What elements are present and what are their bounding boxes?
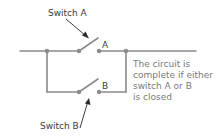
switch-a-blade	[79, 38, 98, 51]
switch-a-arrowhead-icon	[82, 32, 89, 39]
contact-a-label: A	[102, 40, 108, 50]
note-line-1: The circuit is	[133, 59, 213, 70]
switch-a-pivot-node	[77, 49, 81, 53]
switch-b-callout-label: Switch B	[40, 121, 79, 131]
note-line-3: switch A or B	[133, 81, 213, 92]
contact-b-label: B	[102, 81, 108, 91]
note-line-4: is closed	[133, 92, 213, 103]
note-line-2: complete if either	[133, 70, 213, 81]
switch-b-arrowhead-icon	[85, 98, 91, 105]
switch-b-blade	[79, 79, 98, 92]
parallel-circuit-diagram: Switch A Switch B A B The circuit is com…	[0, 0, 223, 139]
switch-b-pivot-node	[77, 90, 81, 94]
junction-right-node	[124, 49, 128, 53]
junction-left-node	[45, 49, 49, 53]
switch-a-callout-label: Switch A	[48, 8, 87, 18]
switch-b-callout-arrow	[80, 101, 88, 128]
circuit-explanation-note: The circuit is complete if either switch…	[133, 59, 213, 103]
switch-a-callout-arrow	[66, 19, 86, 36]
switch-b-contact-node	[97, 90, 101, 94]
switch-a-contact-node	[97, 49, 101, 53]
